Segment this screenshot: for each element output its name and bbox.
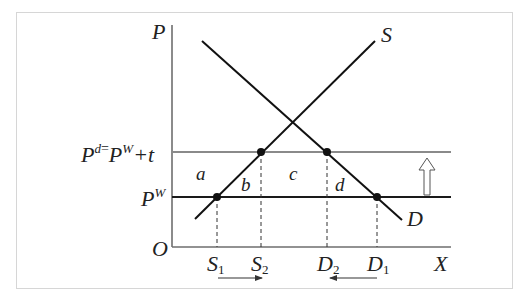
world-price-label-sup: W [154, 185, 166, 200]
s1-label: S1 [207, 251, 225, 277]
origin-label: O [152, 236, 168, 261]
d1-label-sub: 1 [383, 262, 390, 277]
demand-curve-label: D [406, 206, 423, 231]
world-price-label: PW [140, 185, 166, 211]
area-b-label: b [241, 174, 251, 195]
x-axis-label: X [433, 251, 449, 276]
domestic-price-label-base: P [80, 142, 94, 167]
d2-label-base: D [316, 251, 333, 276]
domestic-price-label-tail: +t [133, 142, 155, 167]
point-s1 [213, 193, 221, 201]
world-price-label-base: P [140, 186, 154, 211]
d1-label-base: D [366, 251, 383, 276]
price-increase-arrow-icon [419, 158, 435, 195]
area-c-label: c [289, 163, 298, 184]
area-d-label: d [335, 174, 345, 195]
s2-label: S2 [251, 251, 269, 277]
point-s2 [257, 148, 265, 156]
d2-label: D2 [316, 251, 339, 277]
d1-label: D1 [366, 251, 389, 277]
supply-curve-label: S [381, 22, 392, 47]
y-axis-label: P [151, 19, 165, 44]
s2-label-base: S [251, 251, 262, 276]
supply-curve [195, 41, 375, 219]
point-d2 [323, 148, 331, 156]
s1-label-base: S [207, 251, 218, 276]
tariff-diagram: P X O S D Pd=PW+t PW a b c d S1 S2 D2 D1 [0, 0, 530, 305]
area-a-label: a [196, 163, 206, 184]
point-d1 [373, 193, 381, 201]
s1-label-sub: 1 [218, 262, 225, 277]
d2-label-sub: 2 [333, 262, 340, 277]
domestic-price-label-base2: P [108, 142, 122, 167]
s2-label-sub: 2 [262, 262, 269, 277]
demand-curve [202, 41, 402, 220]
domestic-price-label: Pd=PW+t [80, 141, 155, 167]
domestic-price-label-eq: = [101, 141, 109, 156]
